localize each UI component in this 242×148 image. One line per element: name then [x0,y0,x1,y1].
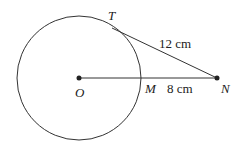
label-N: N [220,81,231,96]
label-T: T [108,8,116,23]
label-MN-length: 8 cm [167,81,193,96]
label-TN-length: 12 cm [159,36,191,51]
point-N [215,76,220,81]
label-O: O [75,85,85,100]
label-M: M [144,81,157,96]
point-O [77,76,82,81]
circle-tangent-diagram: O M N T 12 cm 8 cm [0,0,242,148]
